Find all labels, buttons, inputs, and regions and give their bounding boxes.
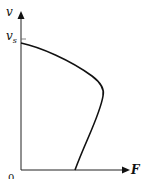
vs-label: vs — [6, 30, 17, 45]
y-axis-label: v — [6, 6, 13, 18]
vs-main: v — [6, 29, 13, 43]
origin-label: 0 — [8, 173, 14, 179]
vs-sub: s — [13, 36, 17, 45]
x-axis-label: F — [131, 164, 140, 176]
curve — [21, 43, 103, 170]
diagram — [0, 0, 141, 179]
x-axis-arrow-icon — [122, 167, 130, 174]
y-axis-arrow-icon — [18, 11, 25, 19]
